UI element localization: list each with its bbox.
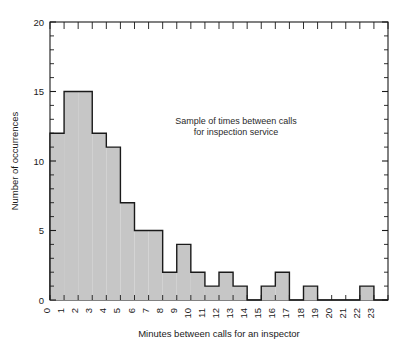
- x-axis-tick-label: 17: [280, 308, 291, 319]
- x-axis-tick-label: 0: [41, 308, 52, 313]
- annotation-line-1: Sample of times between calls: [175, 116, 297, 126]
- histogram-bar: [219, 272, 233, 300]
- y-axis-tick-label: 5: [39, 225, 44, 236]
- y-axis-title: Number of occurrences: [9, 111, 20, 210]
- x-axis-tick-label: 3: [83, 308, 94, 313]
- histogram-bar: [275, 272, 289, 300]
- x-axis-tick-label: 22: [351, 308, 362, 319]
- histogram-bar: [304, 286, 318, 300]
- x-axis-tick-label: 16: [266, 308, 277, 319]
- histogram-figure: 05101520 0123456789101112131415161718192…: [0, 0, 410, 345]
- histogram-chart: 05101520 0123456789101112131415161718192…: [0, 0, 410, 345]
- x-axis-tick-label: 9: [168, 308, 179, 313]
- x-axis-tick-label: 2: [69, 308, 80, 313]
- x-axis-tick-label: 14: [238, 308, 249, 319]
- x-axis-tick-label: 15: [252, 308, 263, 319]
- x-axis-tick-label: 20: [323, 308, 334, 319]
- histogram-bar: [163, 272, 177, 300]
- x-axis-tick-label: 7: [140, 308, 151, 313]
- y-axis-tick-label: 15: [33, 86, 44, 97]
- histogram-bar: [120, 203, 134, 300]
- histogram-bar: [205, 286, 219, 300]
- histogram-bar: [360, 286, 374, 300]
- histogram-bar: [64, 92, 78, 301]
- histogram-bar: [233, 286, 247, 300]
- x-axis-tick-label: 18: [295, 308, 306, 319]
- y-axis-tick-label: 10: [33, 156, 44, 167]
- x-axis-tick-label: 4: [97, 308, 108, 313]
- histogram-bar: [177, 244, 191, 300]
- x-axis-tick-label: 5: [111, 308, 122, 313]
- histogram-bar: [261, 286, 275, 300]
- x-axis-tick-label: 1: [55, 308, 66, 313]
- histogram-bar: [149, 231, 163, 301]
- histogram-bar: [78, 92, 92, 301]
- histogram-bar: [92, 133, 106, 300]
- x-axis-tick-label: 8: [154, 308, 165, 313]
- y-axis-tick-label: 20: [33, 17, 44, 28]
- histogram-bar: [191, 272, 205, 300]
- x-axis-tick-label: 23: [365, 308, 376, 319]
- histogram-bar: [106, 147, 120, 300]
- histogram-bar: [135, 231, 149, 301]
- x-axis-tick-label: 12: [210, 308, 221, 319]
- x-axis-tick-label: 11: [196, 308, 207, 318]
- x-axis-tick-label: 19: [309, 308, 320, 319]
- x-axis-tick-label: 21: [337, 308, 348, 319]
- x-axis-tick-label: 10: [182, 308, 193, 319]
- y-axis-tick-label: 0: [39, 295, 44, 306]
- x-axis-title: Minutes between calls for an inspector: [138, 328, 300, 339]
- x-axis-tick-label: 13: [224, 308, 235, 319]
- annotation-line-2: for inspection service: [194, 127, 279, 137]
- x-axis-tick-label: 6: [126, 308, 137, 313]
